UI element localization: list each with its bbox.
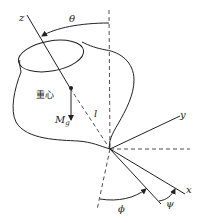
y-axis: [110, 116, 180, 149]
theta-arc: [42, 23, 109, 36]
length-label: l: [94, 108, 97, 119]
gravity-moment-label: Mg: [54, 114, 70, 127]
center-of-gravity-label: 重心: [36, 89, 54, 100]
z-axis: [27, 15, 70, 88]
phi-label: ϕ: [118, 203, 125, 214]
x-axis: [110, 149, 185, 194]
theta-label: θ: [69, 13, 75, 24]
x-axis-label: x: [186, 184, 192, 195]
phi-arc: [100, 189, 146, 200]
vertical-dashed-line: [109, 10, 110, 149]
z-axis-label: z: [18, 12, 25, 23]
y-axis-label: y: [179, 109, 186, 120]
body-outline: [13, 42, 134, 149]
euler-angle-diagram: z θ 重心 Mg l y x ϕ ψ: [0, 0, 199, 223]
psi-label: ψ: [166, 198, 174, 209]
vertical-dashed-line-lower: [97, 149, 110, 210]
z-axis-dashed: [70, 88, 110, 149]
